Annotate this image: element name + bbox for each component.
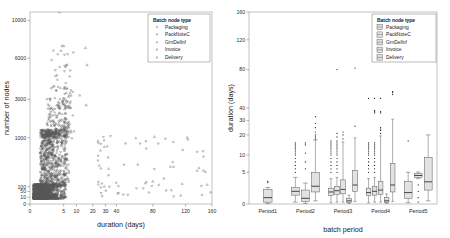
svg-text:PackNoteC: PackNoteC [165,32,190,37]
svg-text:Period2: Period2 [296,208,315,214]
svg-text:40: 40 [239,105,245,111]
scatter-y-axis-title: number of nodes [2,81,11,135]
scatter-x-axis-title: duration (days) [97,220,145,229]
boxplot-category-labels: Period1Period2Period3Period4Period5 [259,208,428,214]
svg-text:5: 5 [242,169,245,175]
scatter-legend-title: Batch node type [153,18,191,23]
svg-text:1000: 1000 [15,135,26,141]
svg-text:Period5: Period5 [409,208,428,214]
scatter-legend: Batch node type PackagingPackNoteCGrnDel… [148,14,210,62]
svg-text:100: 100 [18,184,27,190]
svg-text:160: 160 [208,208,217,214]
svg-text:GrnDelInf: GrnDelInf [165,40,187,45]
svg-text:Period1: Period1 [259,208,278,214]
boxplot-legend-title: Batch node type [377,18,415,23]
svg-text:30: 30 [239,117,245,123]
svg-text:120: 120 [237,37,246,43]
svg-text:20: 20 [90,208,96,214]
boxplot-x-axis-title: batch period [323,225,363,234]
svg-text:Period3: Period3 [334,208,353,214]
svg-text:3000: 3000 [15,96,26,102]
scatter-panel: 0105010010003000600010000 05102030408012… [0,0,225,238]
boxplot-boxes-layer [264,67,433,203]
scatter-svg: 0105010010003000600010000 05102030408012… [0,0,225,238]
svg-text:30: 30 [103,208,109,214]
svg-text:160: 160 [237,9,246,15]
svg-text:Packaging: Packaging [165,25,188,30]
svg-text:Packaging: Packaging [386,25,409,30]
svg-text:80: 80 [150,208,156,214]
boxplot-panel: 051020304080120160 Period1Period2Period3… [225,0,450,238]
svg-text:10000: 10000 [12,17,26,23]
svg-text:120: 120 [181,208,190,214]
svg-text:0: 0 [23,201,26,207]
svg-text:0: 0 [242,201,245,207]
svg-text:0: 0 [29,208,32,214]
svg-text:Invoice: Invoice [386,47,402,52]
svg-text:10: 10 [239,152,245,158]
svg-text:5: 5 [62,208,65,214]
svg-text:40: 40 [114,208,120,214]
svg-text:20: 20 [239,132,245,138]
scatter-x-ticks: 051020304080120160 [29,204,217,214]
svg-text:Period4: Period4 [371,208,390,214]
svg-text:Delivery: Delivery [165,55,183,60]
svg-text:80: 80 [239,66,245,72]
svg-text:Invoice: Invoice [165,47,181,52]
boxplot-legend: Batch node type PackagingPackNoteCGrnDel… [372,14,436,62]
boxplot-y-ticks: 051020304080120160 [237,9,250,207]
svg-text:10: 10 [20,194,26,200]
svg-text:PackNoteC: PackNoteC [386,32,411,37]
svg-text:Delivery: Delivery [386,55,404,60]
scatter-y-ticks: 0105010010003000600010000 [12,17,30,206]
boxplot-svg: 051020304080120160 Period1Period2Period3… [225,0,450,238]
svg-text:6000: 6000 [15,55,26,61]
figure-root: 0105010010003000600010000 05102030408012… [0,0,450,238]
svg-text:10: 10 [74,208,80,214]
svg-text:GrnDelInf: GrnDelInf [386,40,408,45]
boxplot-y-axis-title: duration (days) [226,84,235,132]
